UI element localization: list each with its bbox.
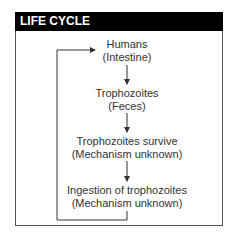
flow-arrows <box>0 0 232 244</box>
loop-arrow-icon <box>57 50 127 220</box>
